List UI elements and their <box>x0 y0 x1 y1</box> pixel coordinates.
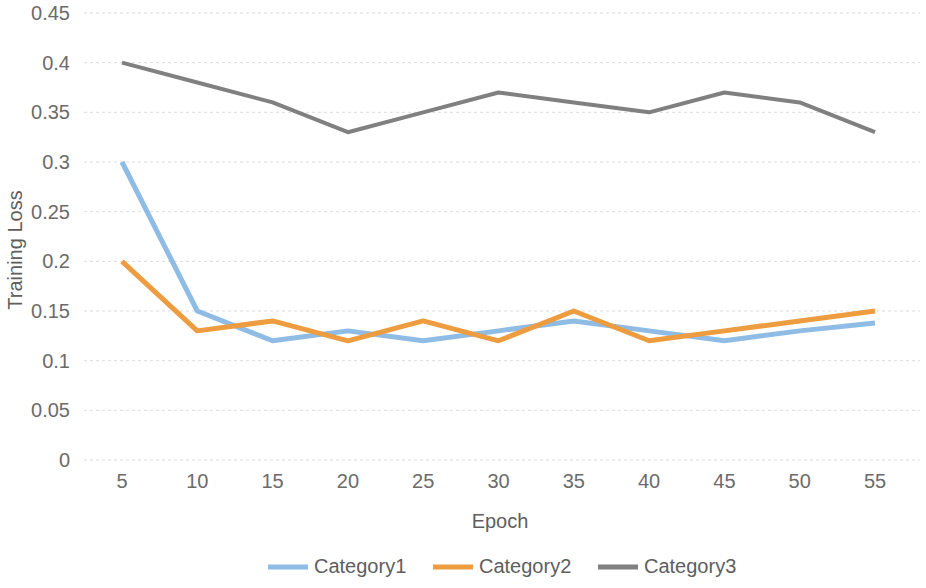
line-chart: 00.050.10.150.20.250.30.350.40.45 510152… <box>0 0 926 588</box>
chart-canvas: 00.050.10.150.20.250.30.350.40.45 510152… <box>0 0 926 588</box>
legend-label[interactable]: Category3 <box>644 555 736 577</box>
x-tick-label: 45 <box>713 470 735 492</box>
x-tick-label: 40 <box>638 470 660 492</box>
y-tick-label: 0.2 <box>42 250 70 272</box>
x-tick-label: 35 <box>563 470 585 492</box>
y-tick-label: 0.05 <box>31 399 70 421</box>
legend-label[interactable]: Category1 <box>314 555 406 577</box>
y-tick-label: 0.4 <box>42 52 70 74</box>
x-axis-title: Epoch <box>472 510 529 532</box>
series-lines <box>122 63 875 341</box>
x-tick-label: 50 <box>789 470 811 492</box>
gridlines <box>84 13 920 460</box>
y-axis-title: Training Loss <box>4 190 26 309</box>
y-tick-label: 0.35 <box>31 101 70 123</box>
y-axis-tick-labels: 00.050.10.150.20.250.30.350.40.45 <box>31 2 70 471</box>
x-axis-tick-labels: 510152025303540455055 <box>116 470 886 492</box>
chart-legend: Category1Category2Category3 <box>268 555 736 577</box>
x-tick-label: 5 <box>116 470 127 492</box>
y-tick-label: 0.25 <box>31 201 70 223</box>
y-tick-label: 0.1 <box>42 350 70 372</box>
legend-label[interactable]: Category2 <box>479 555 571 577</box>
y-tick-label: 0 <box>59 449 70 471</box>
x-tick-label: 55 <box>864 470 886 492</box>
x-tick-label: 25 <box>412 470 434 492</box>
y-tick-label: 0.45 <box>31 2 70 24</box>
series-line-category3 <box>122 63 875 133</box>
x-tick-label: 10 <box>186 470 208 492</box>
x-tick-label: 30 <box>487 470 509 492</box>
y-tick-label: 0.15 <box>31 300 70 322</box>
series-line-category1 <box>122 162 875 341</box>
y-tick-label: 0.3 <box>42 151 70 173</box>
x-tick-label: 15 <box>261 470 283 492</box>
x-tick-label: 20 <box>337 470 359 492</box>
